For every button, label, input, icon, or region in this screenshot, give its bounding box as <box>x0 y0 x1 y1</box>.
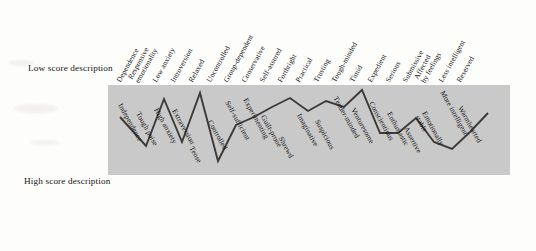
low-score-trait-label: Reserved <box>455 56 475 84</box>
low-score-trait-label: Trusting <box>312 58 331 84</box>
high-score-description-label: High score description <box>24 176 110 186</box>
low-score-trait-label: Timid <box>348 64 364 84</box>
paper-artifact <box>30 140 60 145</box>
figure-canvas: Low score description High score descrip… <box>0 0 536 251</box>
low-score-trait-label: Serious <box>384 60 402 84</box>
low-score-trait-label: Practical <box>294 57 314 84</box>
low-score-description-label: Low score description <box>28 63 113 73</box>
paper-artifact <box>14 104 58 113</box>
low-score-trait-label: Relaxed <box>187 59 206 84</box>
